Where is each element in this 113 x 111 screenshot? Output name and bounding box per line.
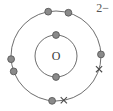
- ion-charge-label: 2−: [96, 2, 109, 14]
- electron-dot: [53, 74, 60, 81]
- electron-dot: [49, 97, 56, 104]
- electron-shell-diagram: O: [0, 0, 113, 111]
- electron-dot: [45, 8, 52, 15]
- electron-dot: [8, 56, 15, 63]
- electron-dot: [10, 68, 17, 75]
- electron-dot: [65, 9, 72, 16]
- electron-dot: [98, 51, 105, 58]
- electron-dot: [53, 32, 60, 39]
- nucleus-element-symbol: O: [52, 49, 61, 63]
